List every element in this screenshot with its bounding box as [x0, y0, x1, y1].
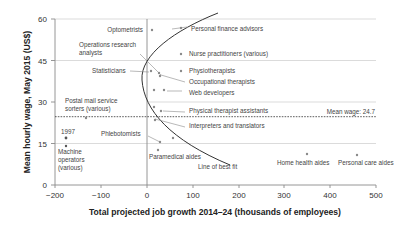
point-machine-operators	[65, 145, 67, 147]
point-physiotherapists	[180, 70, 182, 72]
point-paramedical-aides	[157, 149, 159, 151]
y-tick-60: 60	[38, 15, 47, 24]
point-unlabeled	[172, 137, 174, 139]
point-occupational-therapists	[159, 75, 161, 77]
point-web-developers-b	[163, 89, 165, 91]
label-interpreters: Interpreters and translators	[189, 122, 265, 130]
scatter-chart: 60 45 30 15 0 −200 −100 0 100 200 300 40…	[0, 0, 416, 226]
label-ops-research-1: Operations research	[79, 41, 137, 49]
point-statisticians	[150, 70, 152, 72]
point-1997	[65, 137, 68, 140]
y-tick-labels: 60 45 30 15 0	[38, 15, 47, 190]
y-tick-45: 45	[38, 57, 47, 66]
x-tick-minus200: −200	[46, 191, 65, 200]
point-personal-finance-advisors	[180, 27, 182, 29]
label-1997: 1997	[61, 128, 76, 135]
x-tick-labels: −200 −100 0 100 200 300 400 500	[46, 191, 383, 200]
point-postal-sorters	[85, 117, 87, 119]
label-physical-therapist-assistants: Physical therapist assistants	[189, 107, 268, 115]
point-home-health-aides	[306, 153, 308, 155]
label-machine-2: operators	[58, 156, 85, 164]
y-tick-15: 15	[38, 140, 47, 149]
x-tick-100: 100	[186, 191, 200, 200]
label-phlebotomists: Phlebotomists	[101, 130, 141, 137]
point-nurse-practitioners	[180, 53, 182, 55]
label-personal-finance-advisors: Personal finance advisors	[191, 25, 263, 32]
x-tick-300: 300	[277, 191, 291, 200]
x-tick-minus100: −100	[92, 191, 111, 200]
x-axis-title: Total projected job growth 2014–24 (thou…	[89, 207, 341, 217]
x-tick-0: 0	[145, 191, 150, 200]
point-operations-research	[158, 72, 160, 74]
label-optometrists: Optometrists	[107, 26, 143, 34]
label-personal-care-aides: Personal care aides	[338, 159, 394, 166]
label-machine-3: (various)	[58, 164, 83, 172]
label-line-of-best-fit: Line of best fit	[198, 163, 237, 170]
label-ops-research-2: analysts	[79, 49, 102, 57]
y-axis-title: Mean hourly wage, May 2015 (US$)	[22, 31, 32, 173]
point-web-developers-a	[153, 89, 155, 91]
x-tick-400: 400	[323, 191, 337, 200]
label-home-health-aides: Home health aides	[277, 159, 330, 166]
point-phlebotomists	[159, 141, 161, 143]
y-tick-0: 0	[43, 181, 48, 190]
point-pta-a	[153, 106, 155, 108]
label-machine-1: Machine	[58, 148, 82, 155]
label-nurse-practitioners: Nurse practitioners (various)	[189, 50, 268, 58]
label-statisticians: Statisticians	[92, 67, 126, 74]
label-postal-1: Postal mail service	[65, 97, 118, 104]
label-mean-wage: Mean wage: 24.7	[327, 108, 376, 116]
label-paramedical-aides: Paramedical aides	[149, 153, 201, 160]
point-optometrists	[151, 29, 153, 31]
x-tick-200: 200	[232, 191, 246, 200]
label-occupational-therapists: Occupational therapists	[189, 78, 255, 86]
point-physical-therapist-assistants	[160, 110, 162, 112]
x-tick-500: 500	[369, 191, 383, 200]
label-web-developers: Web developers	[189, 89, 234, 97]
point-personal-care-aides	[356, 154, 358, 156]
y-tick-30: 30	[38, 98, 47, 107]
point-labels: Optometrists Personal finance advisors O…	[58, 25, 394, 172]
label-physiotherapists: Physiotherapists	[189, 67, 235, 75]
label-postal-2: sorters (various)	[65, 105, 111, 113]
point-interpreters	[154, 119, 156, 121]
